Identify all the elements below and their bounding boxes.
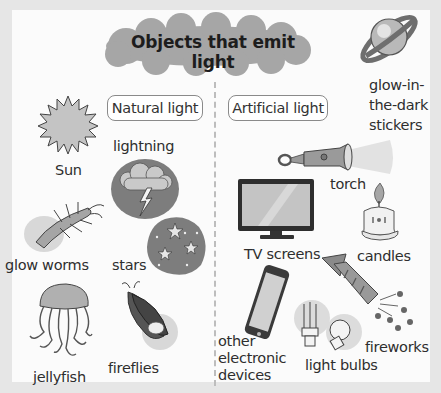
label-line: other xyxy=(218,333,286,350)
label-line: the-dark xyxy=(369,95,428,115)
artificial-light-heading: Artificial light xyxy=(228,95,328,121)
stars-icon xyxy=(145,215,207,277)
tv-screens-label: TV screens xyxy=(244,246,320,263)
page-title: Objects that emit light xyxy=(118,32,308,72)
firefly-icon xyxy=(110,280,182,354)
other-electronic-devices-label: other electronic devices xyxy=(218,333,286,384)
tv-icon xyxy=(238,179,316,241)
jellyfish-label: jellyfish xyxy=(33,369,86,386)
stars-label: stars xyxy=(112,257,146,274)
natural-light-heading: Natural light xyxy=(107,95,203,121)
sun-icon xyxy=(38,96,98,154)
jellyfish-icon xyxy=(26,282,96,360)
fireworks-label: fireworks xyxy=(365,339,429,356)
lightning-label: lightning xyxy=(113,138,174,155)
glow-in-the-dark-label: glow-in- the-dark stickers xyxy=(369,75,428,135)
phone-icon xyxy=(244,264,290,342)
candle-icon xyxy=(360,183,400,241)
fireflies-label: fireflies xyxy=(108,360,159,377)
label-line: electronic xyxy=(218,350,286,367)
planet-sticker-icon xyxy=(356,6,422,70)
torch-icon xyxy=(278,140,394,178)
label-line: glow-in- xyxy=(369,75,428,95)
category-divider xyxy=(214,82,216,386)
glow-worm-icon xyxy=(22,200,108,256)
label-line: devices xyxy=(218,367,286,384)
sun-label: Sun xyxy=(55,162,82,179)
label-line: stickers xyxy=(369,115,428,135)
firework-icon xyxy=(318,254,418,338)
glow-worms-label: glow worms xyxy=(5,257,89,274)
lightning-icon xyxy=(110,158,180,220)
light-bulbs-label: light bulbs xyxy=(305,357,378,374)
